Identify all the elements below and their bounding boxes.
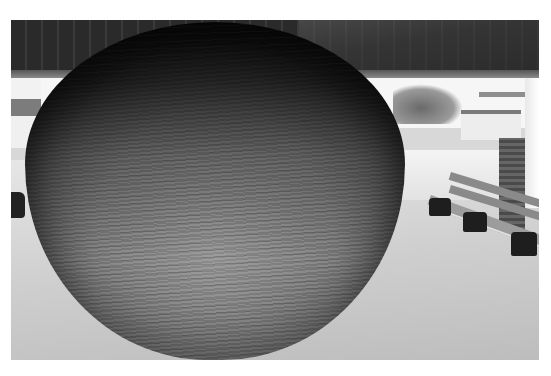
trees — [393, 84, 463, 124]
photograph — [11, 20, 539, 360]
brick-pillar — [499, 138, 525, 233]
bench-leg — [511, 232, 537, 256]
bench-leg — [463, 212, 487, 232]
pavilion-post — [525, 78, 539, 208]
left-bench-leg — [11, 192, 25, 218]
bench-leg — [429, 198, 451, 216]
background-building — [461, 110, 521, 140]
